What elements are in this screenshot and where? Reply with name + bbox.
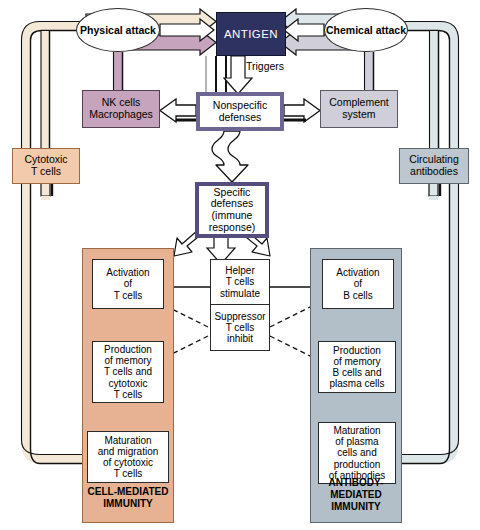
maturation-b-line4: production (329, 459, 386, 470)
maturation-migration-cytotoxic-t-node[interactable]: Maturation and migration of cytotoxic T … (87, 431, 169, 483)
specific-line3: (immune (209, 210, 256, 222)
antigen-to-nonspecific-lines (206, 56, 226, 92)
specific-defenses-node[interactable]: Specific defenses (immune response) (195, 182, 269, 238)
production-memory-b-cells-node[interactable]: Production of memory B cells and plasma … (318, 341, 396, 393)
suppressor-line2: T cells (214, 322, 265, 333)
activation-of-t-cells-node[interactable]: Activation of T cells (92, 259, 164, 309)
cell-mediated-immunity-title: CELL-MEDIATED IMMUNITY (82, 486, 174, 510)
specific-line4: response) (209, 222, 256, 234)
cytotoxic-line2: T cells (24, 166, 67, 178)
activation-b-line1: Activation (336, 267, 379, 278)
antibody-mediated-line1: ANTIBODY- (329, 477, 384, 488)
nonspecific-line2: defenses (213, 112, 267, 124)
antibody-mediated-line2: MEDIATED (330, 489, 381, 500)
cell-mediated-line2: IMMUNITY (103, 498, 152, 509)
helper-t-cells-stimulate-node[interactable]: Helper T cells stimulate (210, 259, 270, 305)
production-memory-t-cells-node[interactable]: Production of memory T cells and cytotox… (92, 341, 164, 403)
nonspecific-defenses-node[interactable]: Nonspecific defenses (196, 92, 284, 131)
maturation-b-line3: cells and (329, 447, 386, 458)
maturation-t-line4: T cells (98, 468, 159, 479)
circulating-antibodies-node[interactable]: Circulating antibodies (399, 148, 469, 184)
production-t-line3: T cells and (104, 366, 152, 377)
activation-t-line3: T cells (106, 290, 149, 301)
activation-t-line1: Activation (106, 267, 149, 278)
production-t-line2: of memory (104, 355, 152, 366)
nonspecific-line1: Nonspecific (213, 100, 267, 112)
complement-line2: system (329, 109, 389, 121)
nonspecific-to-nk-arrow (160, 99, 196, 122)
chemical-attack-line1: Chemical (326, 24, 373, 36)
maturation-b-line1: Maturation (329, 425, 386, 436)
production-b-line2: of memory (329, 356, 384, 367)
nonspecific-to-specific-squiggle-arrow (212, 131, 248, 182)
production-t-line1: Production (104, 344, 152, 355)
maturation-t-line3: of cytotoxic (98, 457, 159, 468)
activation-b-line2: of (336, 278, 379, 289)
immune-response-diagram: CELL-MEDIATED IMMUNITY ANTIBODY- MEDIATE… (0, 0, 480, 530)
production-b-line1: Production (329, 345, 384, 356)
production-b-line4: plasma cells (329, 378, 384, 389)
cream-drop-to-cytotoxic (41, 31, 50, 150)
production-t-line5: T cells (104, 389, 152, 400)
helper-line2: T cells (220, 276, 260, 287)
triggers-label: Triggers (246, 60, 284, 72)
cell-mediated-line1: CELL-MEDIATED (88, 486, 169, 497)
chemical-attack-line2: attack (376, 24, 406, 36)
helper-line3: stimulate (220, 288, 260, 299)
circulating-line2: antibodies (409, 166, 459, 178)
maturation-plasma-cells-node[interactable]: Maturation of plasma cells and productio… (318, 422, 396, 484)
maturation-t-line2: and migration (98, 446, 159, 457)
production-b-line3: B cells and (329, 367, 384, 378)
nk-cells-line2: Macrophages (89, 109, 153, 121)
antigen-label: ANTIGEN (217, 28, 285, 41)
chemical-attack-to-complement-pipe (365, 52, 374, 90)
physical-attack-line1: Physical (80, 24, 123, 36)
suppressor-t-cells-inhibit-node[interactable]: Suppressor T cells inhibit (210, 305, 270, 351)
blue-drop-to-circulating (430, 31, 439, 150)
suppressor-line3: inhibit (214, 333, 265, 344)
production-t-line4: cytotoxic (104, 378, 152, 389)
chemical-attack-node[interactable]: Chemical attack (324, 8, 408, 52)
activation-t-line2: of (106, 278, 149, 289)
maturation-t-line1: Maturation (98, 435, 159, 446)
physical-attack-line2: attack (126, 24, 156, 36)
nk-cells-macrophages-node[interactable]: NK cells Macrophages (82, 90, 160, 128)
antibody-mediated-immunity-title: ANTIBODY- MEDIATED IMMUNITY (310, 477, 402, 512)
antigen-node[interactable]: ANTIGEN (216, 12, 286, 56)
physical-attack-node[interactable]: Physical attack (76, 8, 160, 52)
antibody-mediated-line3: IMMUNITY (331, 501, 380, 512)
physical-attack-to-nk-pipe (114, 52, 123, 90)
activation-of-b-cells-node[interactable]: Activation of B cells (322, 259, 394, 309)
complement-system-node[interactable]: Complement system (320, 90, 398, 128)
cytotoxic-t-cells-node[interactable]: Cytotoxic T cells (12, 148, 80, 184)
suppressor-line1: Suppressor (214, 311, 265, 322)
maturation-b-line2: of plasma (329, 436, 386, 447)
nonspecific-to-complement-arrow (284, 99, 320, 122)
activation-b-line3: B cells (336, 290, 379, 301)
helper-line1: Helper (220, 265, 260, 276)
